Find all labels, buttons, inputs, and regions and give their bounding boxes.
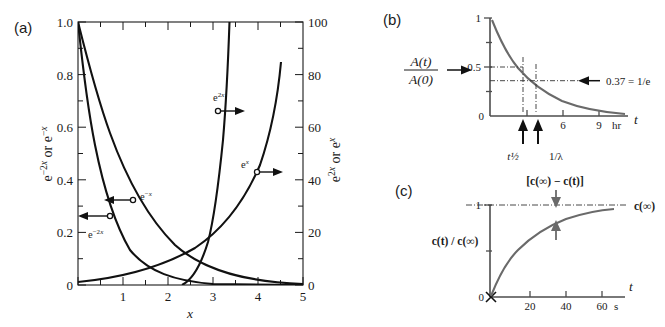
panel-a-xtick-2: 2 <box>165 289 172 304</box>
panel-a-xtick-labels: 1 2 3 4 5 <box>120 289 307 304</box>
panel-a-ytick-4: 0.8 <box>57 68 73 83</box>
panel-b-yaxis-title: A(t) A(0) <box>404 54 438 87</box>
panel-a-xtick-5: 5 <box>300 289 307 304</box>
panel-c-tag: (c) <box>395 182 413 199</box>
panel-b-ytick-1: 1 <box>476 12 482 24</box>
panel-c-yaxis-title: c(t) / c(∞) <box>432 235 479 248</box>
panel-c-xaxis-title: t <box>629 279 634 294</box>
panel-c: (c) 1 0 20 40 60 s t [c(∞) <box>395 175 655 312</box>
panel-a: (a) <box>14 15 343 321</box>
panel-b-xtick-6: 6 <box>560 119 566 131</box>
panel-c-xunit: s <box>614 300 618 312</box>
curve-e-2x <box>182 22 230 285</box>
panel-b-label-half-life: t½ <box>507 150 518 162</box>
panel-a-left-tick-labels: 0 0.2 0.4 0.6 0.8 1.0 <box>57 15 74 293</box>
panel-a-yaxis-title-right: e2x or ex <box>327 137 343 182</box>
panel-a-yaxis-title-left: e−2x or e−x <box>39 126 55 182</box>
panel-b-ylabel-denominator: A(0) <box>408 72 433 87</box>
panel-c-annotation-top: [c(∞) − c(t)] <box>526 175 584 188</box>
panel-c-annotation-right: c(∞) <box>634 200 655 213</box>
panel-b-label-tau: 1/λ <box>549 150 564 162</box>
panel-a-ytick-0: 0 <box>67 278 74 293</box>
panel-c-xtick-60: 60 <box>597 300 609 312</box>
panel-b-reference-lines <box>490 57 578 113</box>
panel-b-annotation-1-over-e: 0.37 = 1/e <box>578 75 651 87</box>
panel-a-ytick-5: 1.0 <box>57 15 73 30</box>
panel-a-ytick-1: 0.2 <box>57 225 73 240</box>
panel-a-curves <box>78 22 303 285</box>
curve-label-e-neg-x: e−x <box>140 190 153 202</box>
panel-c-xtick-20: 20 <box>525 300 537 312</box>
panel-a-rytick-3: 60 <box>308 120 321 135</box>
panel-a-ytick-2: 0.4 <box>57 173 74 188</box>
panel-b-marker-half-life: t½ <box>507 119 528 162</box>
panel-b-xtick-9: 9 <box>596 119 602 131</box>
panel-b-marker-tau: 1/λ <box>533 119 564 162</box>
callout-e-neg-2x: e−2x <box>78 212 113 240</box>
panel-c-xticks <box>530 291 602 297</box>
figure-svg: (a) <box>0 0 665 327</box>
panel-a-rytick-4: 80 <box>308 68 321 83</box>
panel-b-xunit: hr <box>612 119 622 131</box>
panel-a-plot-frame <box>78 22 303 285</box>
callout-e-2x: e2x <box>213 91 245 115</box>
panel-a-rytick-0: 0 <box>308 278 315 293</box>
panel-a-top-ticks <box>101 22 281 30</box>
panel-b-ytick-0: 0 <box>479 110 485 122</box>
panel-a-ytick-3: 0.6 <box>57 120 74 135</box>
curve-label-e-2x: e2x <box>213 91 225 103</box>
panel-a-xaxis-title: x <box>186 306 193 321</box>
svg-text:e2x or ex: e2x or ex <box>327 137 343 182</box>
panel-a-xtick-3: 3 <box>210 289 217 304</box>
panel-b: (b) 1 0.5 0 6 9 hr t <box>383 11 651 162</box>
panel-c-growth-curve <box>491 209 614 296</box>
panel-b-tag: (b) <box>383 11 401 28</box>
figure-container: (a) <box>0 0 665 327</box>
curve-label-e-neg-2x: e−2x <box>88 228 104 240</box>
panel-a-tag: (a) <box>14 19 32 36</box>
curve-e-neg-2x <box>78 22 303 285</box>
panel-b-xticks <box>527 110 599 116</box>
panel-c-xtick-40: 40 <box>561 300 573 312</box>
panel-b-xaxis-title: t <box>634 112 639 127</box>
svg-text:e−2x or e−x: e−2x or e−x <box>39 126 55 182</box>
panel-a-rytick-1: 20 <box>308 225 321 240</box>
panel-a-right-tick-labels: 0 20 40 60 80 100 <box>308 15 328 293</box>
panel-b-ytick-05: 0.5 <box>467 61 481 73</box>
curve-e-neg-x <box>78 22 303 284</box>
panel-c-ytick-0: 0 <box>479 291 485 303</box>
panel-a-xtick-1: 1 <box>120 289 127 304</box>
panel-b-ylabel-numerator: A(t) <box>410 54 432 69</box>
panel-b-annotation-text: 0.37 = 1/e <box>606 75 651 87</box>
callout-e-neg-x: e−x <box>104 190 153 204</box>
panel-c-arrow-up <box>551 220 561 240</box>
panel-a-right-ticks <box>295 22 303 285</box>
curve-label-e-x: ex <box>241 158 250 170</box>
panel-a-rytick-2: 40 <box>308 173 321 188</box>
panel-a-rytick-5: 100 <box>308 15 328 30</box>
panel-a-xtick-4: 4 <box>255 289 262 304</box>
